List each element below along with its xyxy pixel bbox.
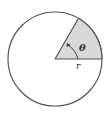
radius-label: r xyxy=(76,61,81,71)
angle-label: θ xyxy=(79,42,86,53)
circle-diagram: θ r xyxy=(0,0,109,114)
